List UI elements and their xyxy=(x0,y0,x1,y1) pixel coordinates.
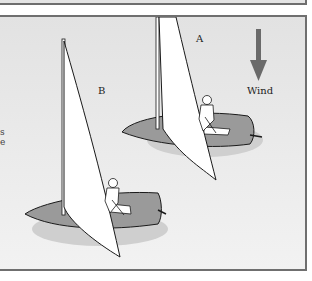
previous-panel-border xyxy=(0,0,307,5)
wind-arrow-icon xyxy=(250,29,267,81)
boat-a-label: A xyxy=(196,33,203,44)
sailing-diagram-panel: s e A B Wind xyxy=(0,15,307,271)
left-fragment-2: e xyxy=(0,137,5,147)
boats-illustration: s e xyxy=(0,17,305,269)
wind-label: Wind xyxy=(247,85,273,96)
boat-b-label: B xyxy=(98,85,105,96)
boat-a-mast xyxy=(156,17,159,129)
left-fragment-1: s xyxy=(0,127,5,137)
